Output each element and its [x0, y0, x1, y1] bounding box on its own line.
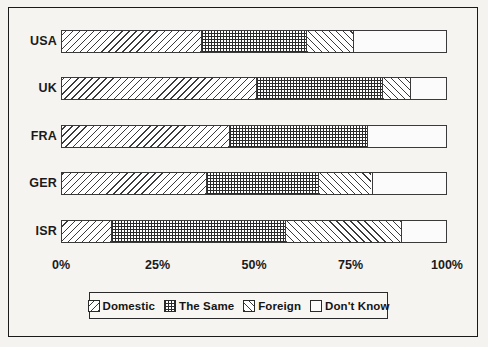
- segment-usa-domestic: [62, 31, 201, 52]
- segment-isr-foreign: [285, 221, 401, 242]
- legend-label-dont-know: Don't Know: [325, 300, 389, 312]
- legend: Domestic The Same Foreign Don't Know: [89, 292, 388, 319]
- legend-label-domestic: Domestic: [103, 300, 156, 312]
- bar-row-usa: USA: [0, 30, 488, 53]
- segment-fra-dont-know: [367, 126, 446, 147]
- segment-uk-dont-know: [410, 78, 446, 99]
- segment-ger-dont-know: [372, 173, 446, 194]
- segment-uk-domestic: [62, 78, 256, 99]
- legend-label-foreign: Foreign: [258, 300, 301, 312]
- category-label-uk: UK: [0, 77, 57, 100]
- x-tick-100: 100%: [431, 258, 463, 272]
- legend-label-the-same: The Same: [179, 300, 234, 312]
- stacked-bar-ger[interactable]: [61, 172, 447, 195]
- plot-area: USA UK FRA: [0, 0, 488, 347]
- segment-usa-foreign: [306, 31, 354, 52]
- category-label-fra: FRA: [0, 125, 57, 148]
- segment-uk-the-same: [256, 78, 382, 99]
- segment-ger-the-same: [206, 173, 317, 194]
- legend-item-dont-know[interactable]: Don't Know: [310, 300, 389, 312]
- category-label-isr: ISR: [0, 220, 57, 243]
- legend-item-domestic[interactable]: Domestic: [88, 300, 156, 312]
- segment-fra-the-same: [229, 126, 367, 147]
- stacked-bar-uk[interactable]: [61, 77, 447, 100]
- x-tick-50: 50%: [241, 258, 266, 272]
- category-label-usa: USA: [0, 30, 57, 53]
- segment-ger-domestic: [62, 173, 206, 194]
- bar-row-fra: FRA: [0, 125, 488, 148]
- segment-ger-foreign: [318, 173, 372, 194]
- legend-swatch-dont-know-icon: [310, 300, 322, 312]
- segment-uk-foreign: [382, 78, 410, 99]
- segment-isr-domestic: [62, 221, 111, 242]
- stacked-bar-isr[interactable]: [61, 220, 447, 243]
- x-tick-75: 75%: [338, 258, 363, 272]
- legend-swatch-the-same-icon: [164, 300, 176, 312]
- bar-row-isr: ISR: [0, 220, 488, 243]
- stacked-bar-usa[interactable]: [61, 30, 447, 53]
- legend-swatch-foreign-icon: [243, 300, 255, 312]
- x-tick-25: 25%: [145, 258, 170, 272]
- x-tick-0: 0%: [52, 258, 70, 272]
- segment-isr-the-same: [111, 221, 285, 242]
- segment-isr-dont-know: [401, 221, 446, 242]
- chart-figure: USA UK FRA: [0, 0, 488, 347]
- legend-swatch-domestic-icon: [88, 300, 100, 312]
- segment-usa-the-same: [201, 31, 305, 52]
- segment-fra-domestic: [62, 126, 229, 147]
- segment-usa-dont-know: [353, 31, 446, 52]
- bar-row-uk: UK: [0, 77, 488, 100]
- category-label-ger: GER: [0, 172, 57, 195]
- x-axis: 0% 25% 50% 75% 100%: [0, 258, 488, 278]
- legend-item-the-same[interactable]: The Same: [164, 300, 234, 312]
- legend-item-foreign[interactable]: Foreign: [243, 300, 301, 312]
- stacked-bar-fra[interactable]: [61, 125, 447, 148]
- bar-row-ger: GER: [0, 172, 488, 195]
